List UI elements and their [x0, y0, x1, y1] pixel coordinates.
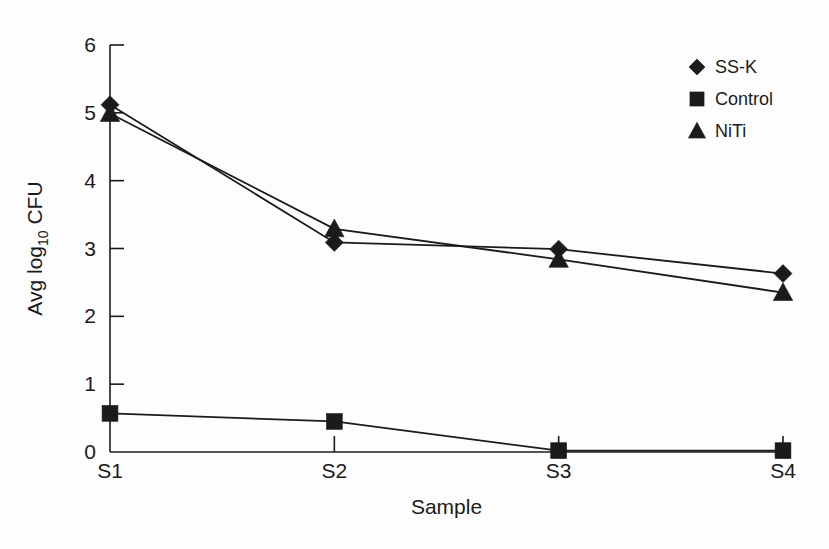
y-axis: 0123456 — [84, 33, 124, 463]
legend-label: Control — [715, 89, 773, 109]
legend-marker-triangle — [688, 122, 705, 138]
axis-titles: SampleAvg log10 CFU — [23, 181, 482, 518]
y-tick-label: 2 — [84, 304, 96, 327]
y-axis-title-subscript: 10 — [35, 230, 51, 246]
y-axis-title-main: Avg log — [23, 246, 46, 316]
x-axis: S1S2S3S4 — [97, 436, 796, 482]
x-tick-label: S4 — [770, 459, 796, 482]
x-tick-label: S2 — [321, 459, 347, 482]
x-axis-title: Sample — [411, 495, 482, 518]
y-tick-label: 1 — [84, 372, 96, 395]
y-axis-title: Avg log10 CFU — [23, 181, 51, 315]
legend-marker-square — [690, 92, 704, 106]
x-tick-label: S3 — [546, 459, 572, 482]
chart-series-group — [100, 96, 792, 459]
marker-square — [326, 414, 342, 430]
marker-diamond — [774, 265, 792, 283]
marker-square — [102, 405, 118, 421]
line-chart: 0123456 S1S2S3S4 SS-KControlNiTi SampleA… — [0, 0, 829, 549]
marker-square — [551, 443, 567, 459]
series-niti — [100, 104, 792, 301]
y-tick-label: 0 — [84, 440, 96, 463]
series-ss-k — [101, 96, 792, 283]
marker-square — [775, 443, 791, 459]
series-control — [102, 405, 791, 458]
marker-triangle — [325, 219, 344, 237]
series-line — [110, 413, 783, 450]
legend-label: SS-K — [715, 57, 757, 77]
chart-container: 0123456 S1S2S3S4 SS-KControlNiTi SampleA… — [0, 0, 829, 549]
x-tick-label: S1 — [97, 459, 123, 482]
y-tick-label: 6 — [84, 33, 96, 56]
legend-marker-diamond — [689, 59, 705, 75]
y-tick-label: 5 — [84, 101, 96, 124]
series-line — [110, 114, 783, 293]
y-tick-label: 3 — [84, 237, 96, 260]
y-axis-title-tail: CFU — [23, 181, 46, 230]
y-tick-label: 4 — [84, 169, 96, 192]
legend-label: NiTi — [715, 121, 746, 141]
series-line — [110, 105, 783, 274]
chart-legend: SS-KControlNiTi — [688, 57, 773, 141]
